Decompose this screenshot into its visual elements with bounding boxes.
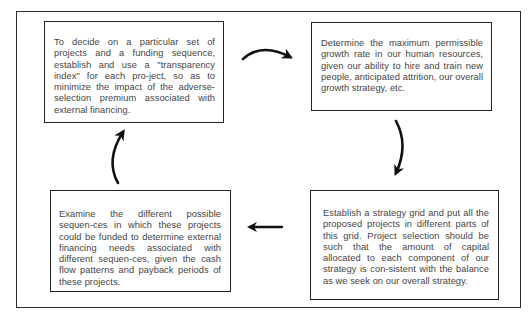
step-text-transparency-index: To decide on a particular set of project…: [54, 37, 215, 116]
step-box-funding-sequences: Examine the different possible sequen-ce…: [50, 190, 231, 292]
step-text-funding-sequences: Examine the different possible sequen-ce…: [59, 209, 221, 288]
step-box-strategy-grid: Establish a strategy grid and put all th…: [310, 190, 499, 300]
step-box-transparency-index: To decide on a particular set of project…: [44, 21, 224, 123]
step-text-strategy-grid: Establish a strategy grid and put all th…: [323, 208, 489, 287]
step-text-growth-rate: Determine the maximum permissible growth…: [321, 38, 483, 94]
step-box-growth-rate: Determine the maximum permissible growth…: [311, 22, 492, 111]
